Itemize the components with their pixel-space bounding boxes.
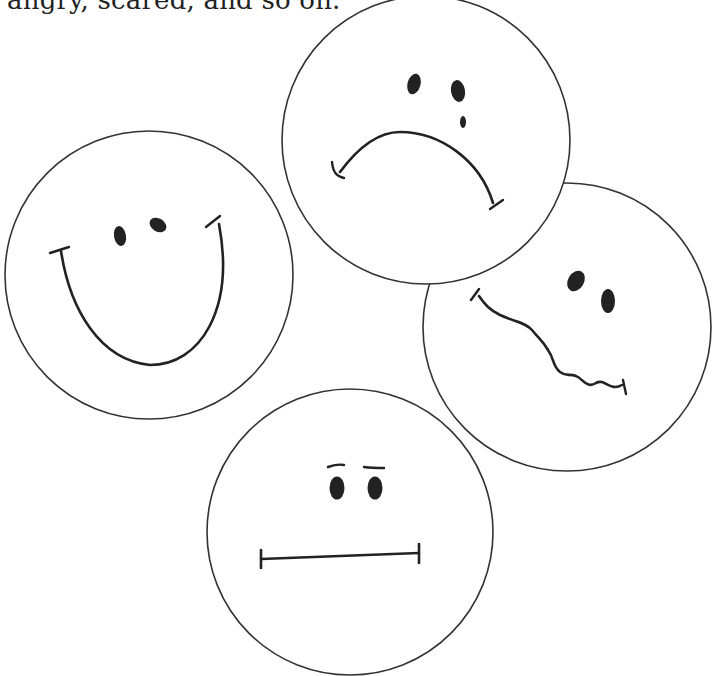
sad-face: [282, 0, 570, 284]
happy-face: [5, 131, 293, 419]
neutral-face: [207, 389, 493, 675]
emotion-faces-illustration: [0, 0, 716, 676]
